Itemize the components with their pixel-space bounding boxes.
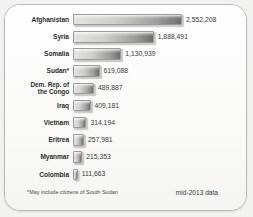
chart-row: Somalia 1,130,939 [5,45,246,62]
chart-card: Afghanistan 2,552,208 Syria 1,888,491 So… [5,5,246,210]
bar [73,31,154,43]
chart-footer: *May include citizens of South Sudan mid… [5,186,246,198]
bar-value-label: 2,552,208 [186,16,216,24]
bar-track: 314,194 [73,114,246,131]
bar [73,134,84,146]
category-label: Eritrea [5,136,73,143]
category-label: Syria [5,33,73,40]
chart-row: Iraq 409,181 [5,97,246,114]
category-label-text: Vietnam [44,119,69,126]
category-label-text: Syria [53,33,69,40]
chart-card-frame: Afghanistan 2,552,208 Syria 1,888,491 So… [4,4,247,211]
bar-track: 257,981 [73,131,246,148]
chart-row: Dem. Rep. of the Congo 489,887 [5,80,246,97]
bar-track: 215,353 [73,149,246,166]
category-label-text: Somalia [44,50,69,57]
bar-track: 1,888,491 [73,28,246,45]
bar-track: 111,663 [73,166,246,183]
bar-value-label: 111,663 [82,170,106,178]
bar-track: 2,552,208 [73,11,246,28]
bar [73,169,78,181]
bar-value-label: 409,181 [95,102,120,110]
bar-value-label: 619,088 [104,67,129,75]
bar [73,83,94,95]
bar [73,117,86,129]
bar-chart: Afghanistan 2,552,208 Syria 1,888,491 So… [5,11,246,183]
bar-value-label: 1,130,939 [125,50,155,58]
chart-row: Eritrea 257,981 [5,131,246,148]
category-label: Sudan* [5,67,73,74]
category-label: Dem. Rep. of the Congo [5,81,73,96]
bar [73,100,91,112]
category-label-text: Eritrea [48,136,69,143]
bar [73,151,82,163]
bar [73,48,121,60]
category-label-text: Sudan* [47,67,69,74]
bar-track: 619,088 [73,63,246,80]
category-label: Colombia [5,171,73,178]
category-label: Iraq [5,102,73,109]
bar-track: 489,887 [73,80,246,97]
chart-row: Colombia 111,663 [5,166,246,183]
category-label: Myanmar [5,153,73,160]
bar-track: 1,130,939 [73,45,246,62]
bar [73,14,182,26]
chart-row: Vietnam 314,194 [5,114,246,131]
screenshot-root: Afghanistan 2,552,208 Syria 1,888,491 So… [0,0,253,217]
bar [73,65,100,77]
category-label-text: Myanmar [40,153,69,160]
bar-value-label: 215,353 [86,153,111,161]
footnote: *May include citizens of South Sudan [27,189,118,195]
chart-row: Sudan* 619,088 [5,63,246,80]
bar-value-label: 257,981 [88,136,113,144]
category-label-text-line2: the Congo [38,88,69,95]
category-label-text: Dem. Rep. of [31,81,69,88]
bar-value-label: 489,887 [98,84,123,92]
category-label: Afghanistan [5,16,73,23]
category-label-text: Colombia [39,171,69,178]
chart-row: Myanmar 215,353 [5,149,246,166]
category-label: Vietnam [5,119,73,126]
category-label-text: Iraq [57,102,69,109]
bar-value-label: 314,194 [90,119,115,127]
category-label-text: Afghanistan [31,16,69,23]
chart-row: Afghanistan 2,552,208 [5,11,246,28]
category-label: Somalia [5,50,73,57]
chart-row: Syria 1,888,491 [5,28,246,45]
bar-track: 409,181 [73,97,246,114]
bar-value-label: 1,888,491 [158,33,188,41]
data-date-note: mid-2013 data [176,189,218,196]
